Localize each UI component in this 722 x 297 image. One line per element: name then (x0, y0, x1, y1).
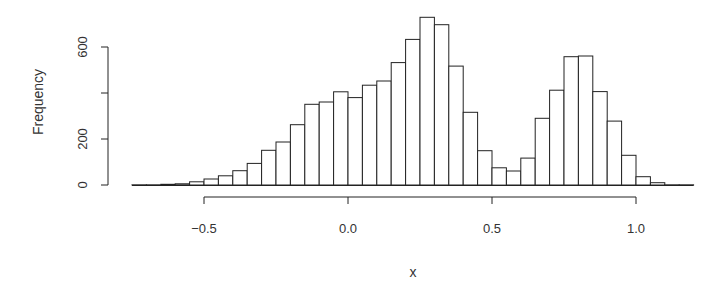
histogram-bar (492, 168, 506, 185)
histogram-bar (593, 92, 607, 185)
histogram-bar (334, 92, 348, 185)
y-tick-label: 0 (75, 181, 90, 188)
x-tick-label: 0.0 (339, 221, 357, 236)
histogram-bar (319, 102, 333, 185)
histogram-bar (362, 85, 376, 185)
histogram-bar (478, 151, 492, 185)
histogram-bar (578, 56, 592, 185)
x-tick-label: 0.5 (483, 221, 501, 236)
histogram-bar (233, 171, 247, 185)
histogram-bar (636, 177, 650, 185)
x-axis-title: x (410, 264, 417, 280)
histogram-chart: −0.50.00.51.0 0200600 x Frequency (0, 0, 722, 297)
y-tick-label: 600 (75, 36, 90, 58)
histogram-bar (190, 182, 204, 185)
histogram-bar (175, 184, 189, 185)
histogram-bar (276, 142, 290, 185)
y-axis: 0200600 (75, 36, 108, 188)
histogram-bar (420, 17, 434, 185)
histogram-bar (218, 176, 232, 185)
histogram-bar (161, 184, 175, 185)
x-tick-label: −0.5 (191, 221, 217, 236)
x-tick-label: 1.0 (627, 221, 645, 236)
histogram-bar (550, 90, 564, 185)
histogram-bar (564, 57, 578, 185)
histogram-bar (463, 112, 477, 185)
histogram-bar (535, 118, 549, 185)
histogram-bar (305, 104, 319, 185)
histogram-bar (434, 25, 448, 185)
histogram-bar (622, 155, 636, 185)
histogram-bars (132, 17, 694, 185)
histogram-bar (449, 66, 463, 185)
histogram-bar (391, 63, 405, 185)
histogram-bar (204, 179, 218, 185)
histogram-bar (377, 81, 391, 185)
histogram-bar (506, 171, 520, 185)
histogram-bar (247, 163, 261, 185)
x-axis: −0.50.00.51.0 (191, 197, 645, 236)
histogram-bar (650, 183, 664, 185)
histogram-bar (348, 98, 362, 185)
y-axis-title: Frequency (30, 69, 46, 135)
histogram-bar (521, 158, 535, 185)
histogram-bar (607, 121, 621, 185)
y-tick-label: 200 (75, 128, 90, 150)
histogram-plot: −0.50.00.51.0 0200600 x Frequency (0, 0, 722, 297)
histogram-bar (406, 39, 420, 185)
histogram-bar (262, 150, 276, 185)
histogram-bar (290, 125, 304, 185)
